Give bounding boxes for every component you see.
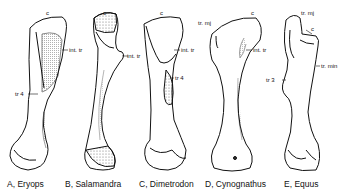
label-dimetrodon-c: c [160,10,163,17]
label-salamandra-int-tr: int. tr [127,53,140,60]
caption-equus: E, Equus [284,179,319,189]
label-eryops-int-tr: int. tr [69,47,82,54]
label-equus-tr-mj: tr. mj [301,10,314,17]
femur-cynognathus [210,18,261,171]
label-equus-c: c [311,26,314,33]
femur-illustrations [0,0,344,196]
femur-dimetrodon [144,17,186,170]
label-dimetrodon-tr4: tr 4 [175,75,184,82]
caption-cynognathus: D, Cynognathus [205,179,266,189]
label-equus-tr3: tr 3 [266,77,275,84]
label-dimetrodon-int-tr: int. tr [181,47,194,54]
label-cynognathus-tr-mj: tr. mj [198,20,211,27]
label-equus-tr-min: tr. min [321,63,337,70]
caption-salamandra: B, Salamandra [65,179,121,189]
femur-salamandra [85,13,124,170]
femur-equus [282,15,319,170]
label-cynognathus-int-tr: int. tr [253,47,266,54]
label-eryops-c: c [46,10,49,17]
caption-eryops: A, Eryops [7,179,44,189]
label-salamandra-c: c [103,10,106,17]
caption-dimetrodon: C, Dimetrodon [139,179,194,189]
label-cynognathus-c: c [251,10,254,17]
label-eryops-tr4: tr 4 [15,91,24,98]
